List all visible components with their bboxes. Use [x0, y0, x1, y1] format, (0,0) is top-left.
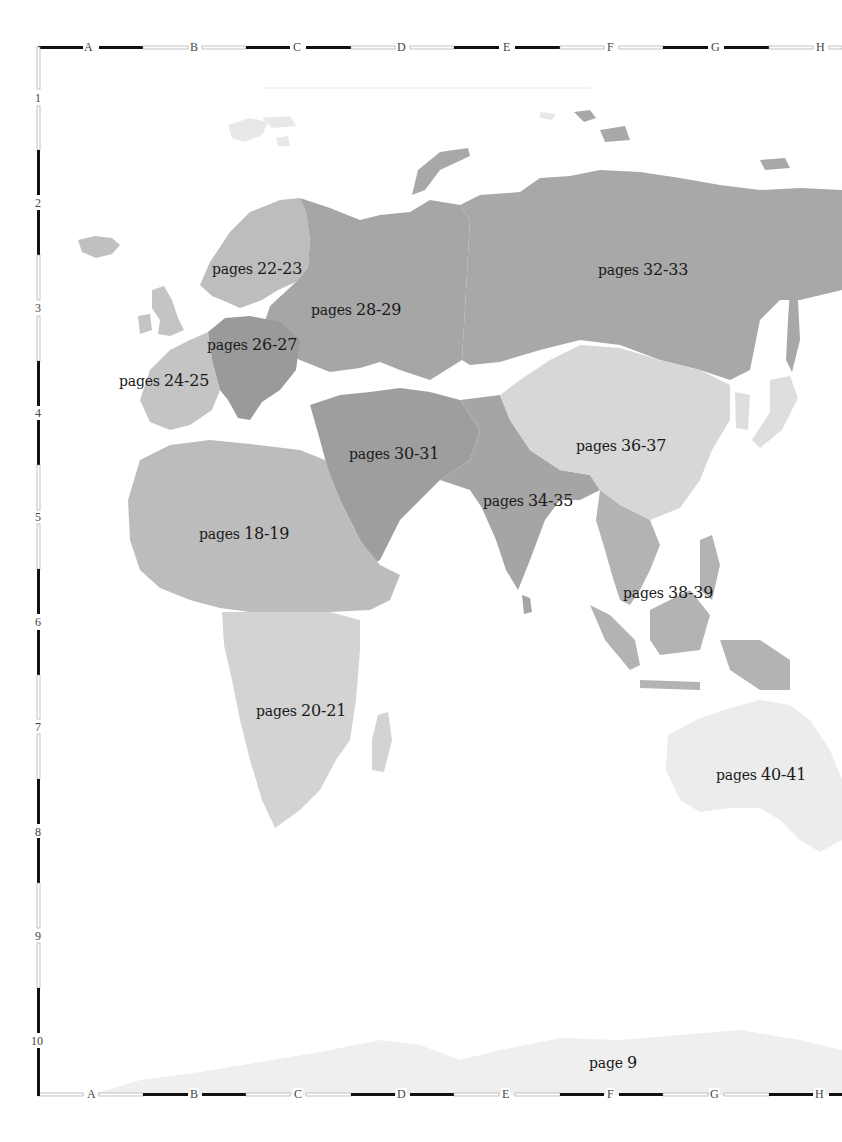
southern-africa-region	[222, 612, 360, 828]
region-link-pages: 34-35	[528, 491, 573, 510]
grid-col-label-top: D	[396, 41, 407, 53]
region-link-prefix: pages	[598, 262, 639, 278]
region-link-prefix: page	[589, 1055, 623, 1071]
korea-japan	[735, 376, 798, 448]
grid-row-label: 6	[34, 616, 42, 628]
grid-col-label-bottom: A	[86, 1088, 97, 1100]
region-link-pages: 30-31	[394, 444, 439, 463]
region-link-prefix: pages	[256, 703, 297, 719]
region-link-pages: 18-19	[244, 524, 289, 543]
region-link-middle-east[interactable]: pages 30-31	[349, 444, 439, 463]
grid-col-label-top: C	[292, 41, 302, 53]
grid-row-label: 9	[34, 930, 42, 942]
region-link-north-africa[interactable]: pages 18-19	[199, 524, 289, 543]
region-link-antarctica[interactable]: page 9	[589, 1053, 637, 1072]
region-link-scandinavia[interactable]: pages 22-23	[212, 259, 302, 278]
region-link-prefix: pages	[311, 302, 352, 318]
region-link-pages: 38-39	[668, 583, 713, 602]
region-link-pages: 20-21	[301, 701, 346, 720]
grid-col-label-top: E	[502, 41, 511, 53]
sakhalin	[786, 290, 800, 372]
region-link-russia-west[interactable]: pages 28-29	[311, 300, 401, 319]
region-link-pages: 40-41	[761, 765, 806, 784]
grid-row-label: 2	[34, 197, 42, 209]
region-link-pages: 28-29	[356, 300, 401, 319]
region-link-southern-africa[interactable]: pages 20-21	[256, 701, 346, 720]
grid-col-label-bottom: H	[814, 1088, 825, 1100]
british-isles	[138, 286, 184, 336]
arctic-islands	[228, 112, 556, 146]
region-link-pages: 9	[627, 1053, 637, 1072]
region-link-central-europe[interactable]: pages 26-27	[207, 335, 297, 354]
grid-col-label-bottom: D	[396, 1088, 407, 1100]
region-link-south-asia[interactable]: pages 34-35	[483, 491, 573, 510]
region-link-prefix: pages	[576, 438, 617, 454]
region-link-pages: 32-33	[643, 260, 688, 279]
region-link-pages: 26-27	[252, 335, 297, 354]
grid-row-label: 4	[34, 407, 42, 419]
region-link-prefix: pages	[212, 261, 253, 277]
region-link-prefix: pages	[349, 446, 390, 462]
grid-col-label-top: B	[189, 41, 199, 53]
grid-row-label: 3	[34, 302, 42, 314]
grid-row-label: 5	[34, 511, 42, 523]
grid-row-label: 10	[30, 1035, 44, 1047]
grid-col-label-bottom: C	[293, 1088, 303, 1100]
region-link-pages: 22-23	[257, 259, 302, 278]
region-link-china[interactable]: pages 36-37	[576, 436, 666, 455]
region-link-prefix: pages	[207, 337, 248, 353]
grid-col-label-bottom: B	[189, 1088, 199, 1100]
region-link-western-europe[interactable]: pages 24-25	[119, 371, 209, 390]
grid-col-label-top: G	[710, 41, 721, 53]
region-link-prefix: pages	[623, 585, 664, 601]
grid-row-label: 8	[34, 826, 42, 838]
grid-col-label-bottom: F	[606, 1088, 615, 1100]
region-link-prefix: pages	[483, 493, 524, 509]
region-link-russia-east[interactable]: pages 32-33	[598, 260, 688, 279]
region-link-southeast-asia[interactable]: pages 38-39	[623, 583, 713, 602]
grid-col-label-top: A	[83, 41, 94, 53]
grid-col-label-bottom: E	[501, 1088, 510, 1100]
region-link-pages: 24-25	[164, 371, 209, 390]
grid-col-label-top: F	[606, 41, 615, 53]
region-link-prefix: pages	[199, 526, 240, 542]
madagascar	[372, 712, 392, 772]
region-link-prefix: pages	[119, 373, 160, 389]
antarctica-region	[90, 1030, 842, 1095]
atlas-map-page: A B C D E F G H A B C D E F G H 1 2 3 4 …	[0, 0, 842, 1142]
region-link-pages: 36-37	[621, 436, 666, 455]
central-europe-region	[208, 316, 300, 420]
grid-row-label: 1	[34, 92, 42, 104]
sri-lanka	[522, 595, 532, 614]
region-link-australia[interactable]: pages 40-41	[716, 765, 806, 784]
region-link-prefix: pages	[716, 767, 757, 783]
iceland	[78, 236, 120, 258]
grid-border-top	[38, 46, 842, 49]
grid-row-label: 7	[34, 721, 42, 733]
grid-col-label-top: H	[815, 41, 826, 53]
map-canvas	[0, 0, 842, 1142]
grid-col-label-bottom: G	[709, 1088, 720, 1100]
